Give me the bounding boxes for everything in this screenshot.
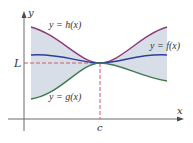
y-axis-arrow-icon — [22, 11, 27, 18]
label-g: y = g(x) — [48, 91, 82, 103]
squeeze-theorem-diagram: y x L c y = h(x) y = f(x) y = g(x) — [0, 0, 193, 143]
x-axis-arrow-icon — [177, 117, 184, 122]
y-axis-label: y — [27, 7, 34, 18]
label-h: y = h(x) — [48, 19, 82, 31]
tick-label-c: c — [97, 122, 103, 133]
x-axis-label: x — [177, 105, 183, 116]
label-f: y = f(x) — [149, 40, 181, 52]
tick-label-L: L — [13, 57, 21, 70]
